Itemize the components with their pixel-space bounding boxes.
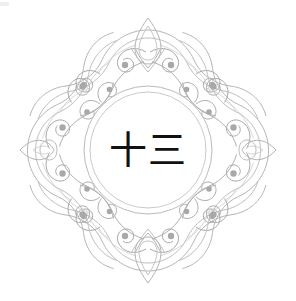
- finial-top: [131, 18, 165, 72]
- center-medallion: [84, 86, 212, 214]
- artboard: 十三: [0, 0, 296, 301]
- trefoil-right: [239, 140, 276, 160]
- corner-artifact: [0, 2, 9, 6]
- trefoil-left: [20, 140, 57, 160]
- medallion-field: [91, 93, 205, 207]
- finial-bottom: [131, 229, 165, 283]
- emblem: [0, 0, 296, 301]
